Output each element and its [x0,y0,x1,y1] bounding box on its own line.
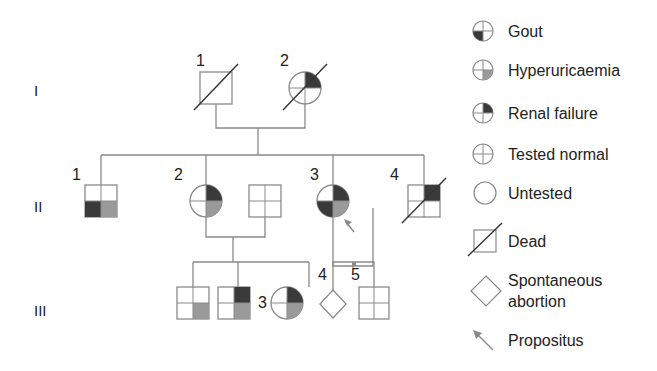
generation-label-I: I [34,82,38,99]
marriage-line-II-2 [206,217,265,237]
individual-I-1: 1 [194,52,238,110]
marriage-line-I [216,104,305,128]
individual-III-5: 5 [351,266,389,319]
generation-label-II: II [34,198,42,215]
abortion-diamond-icon [471,276,501,306]
individual-II-3: 3 [310,166,354,232]
legend-item-renal-failure: Renal failure [473,103,598,123]
svg-text:1: 1 [196,52,205,69]
gout-icon [473,31,483,41]
svg-text:4: 4 [390,166,399,183]
individual-I-2: 2 [280,52,327,110]
svg-text:Untested: Untested [508,185,572,202]
untested-icon [474,182,496,204]
svg-text:Propositus: Propositus [508,332,584,349]
renal-failure-icon [483,103,493,113]
individual-III-3: 3 [258,287,303,319]
svg-text:2: 2 [174,166,183,183]
individual-II-4: 4 [390,166,446,223]
svg-text:5: 5 [351,266,360,283]
legend-item-hyperuricaemia: Hyperuricaemia [473,60,620,80]
svg-text:Dead: Dead [508,233,546,250]
individual-II-2: 2 [174,166,222,217]
hyperuricaemia-icon [483,70,493,80]
svg-text:1: 1 [72,166,81,183]
propositus-arrow-icon [344,219,354,232]
legend-item-propositus: Propositus [473,330,584,350]
pedigree-diagram: I II III 1 2 1 2 3 [0,0,657,371]
svg-text:4: 4 [318,266,327,283]
marriage-line-II-3 [333,208,373,266]
legend: Gout Hyperuricaemia Renal failure Tested… [468,21,620,350]
svg-text:Spontaneous: Spontaneous [508,272,602,289]
svg-text:abortion: abortion [508,293,566,310]
svg-text:Tested normal: Tested normal [508,146,609,163]
individual-III-1: 1 [177,287,209,319]
legend-item-gout: Gout [473,21,543,41]
individual-III-2: 2 [218,287,250,319]
individual-II-1: 1 [72,166,117,217]
svg-text:2: 2 [280,52,289,69]
svg-text:3: 3 [258,294,267,311]
legend-item-tested-normal: Tested normal [473,144,609,164]
svg-text:Hyperuricaemia: Hyperuricaemia [508,62,620,79]
legend-item-spontaneous-abortion: Spontaneous abortion [471,272,602,310]
individual-III-4: 4 [318,266,346,318]
svg-text:3: 3 [310,166,319,183]
svg-text:Renal failure: Renal failure [508,105,598,122]
legend-item-untested: Untested [474,182,572,204]
svg-text:Gout: Gout [508,23,543,40]
individual-II-2-spouse [249,185,281,217]
legend-item-dead: Dead [468,223,546,256]
generation-label-III: III [34,302,47,319]
abortion-diamond-icon [320,290,346,318]
